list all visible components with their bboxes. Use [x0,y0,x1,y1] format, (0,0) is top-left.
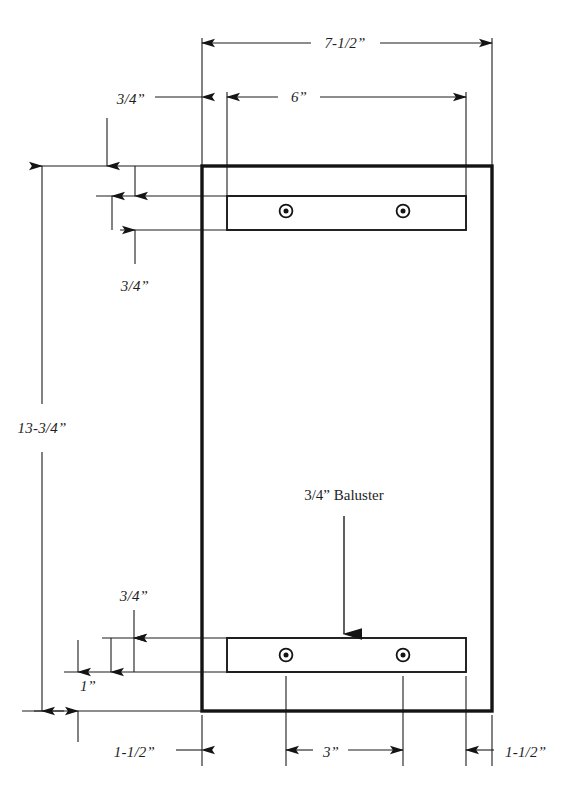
dimension-left-offset: 3/4” [116,91,202,107]
screw-top-right [397,205,410,218]
top-rail [227,196,466,230]
dimension-overall-height-label: 13-3/4” [18,420,67,436]
baluster-callout: 3/4” Baluster [304,487,384,634]
dimension-top-rail-thickness-label: 3/4” [120,278,149,294]
bottom-rail [227,638,466,672]
technical-drawing-canvas: 7-1/2” 6” 3/4” 3/4” [0,0,564,799]
dimension-left-offset-label: 3/4” [116,91,145,107]
dimension-bottom-left-inset-label: 1-1/2” [114,744,155,760]
dimension-bottom-left-inset: 1-1/2” [114,744,202,760]
screw-top-left [280,205,293,218]
dimension-bottom-center-span: 3” [286,744,403,760]
screw-bottom-left [280,649,293,662]
dimension-bottom-right-inset-label: 1-1/2” [505,744,546,760]
dimension-bottom-offset: 1” [78,640,96,742]
dimension-inner-width: 6” [227,89,466,105]
drawing-svg: 7-1/2” 6” 3/4” 3/4” [0,0,564,799]
dimension-inner-width-label: 6” [291,89,307,105]
dimension-overall-width: 7-1/2” [202,35,492,51]
screw-bottom-right [397,649,410,662]
dimension-bottom-rail-offset: 3/4” [111,588,148,672]
dimension-overall-width-label: 7-1/2” [324,35,365,51]
baluster-label: 3/4” Baluster [304,487,384,503]
dimension-bottom-rail-offset-label: 3/4” [119,588,148,604]
extension-lines [34,38,492,766]
post-outline [202,166,492,711]
dimension-bottom-right-inset: 1-1/2” [466,744,546,760]
dimension-overall-height: 13-3/4” [18,166,88,711]
dimension-bottom-offset-label: 1” [80,678,96,694]
dimension-bottom-center-span-label: 3” [322,744,339,760]
